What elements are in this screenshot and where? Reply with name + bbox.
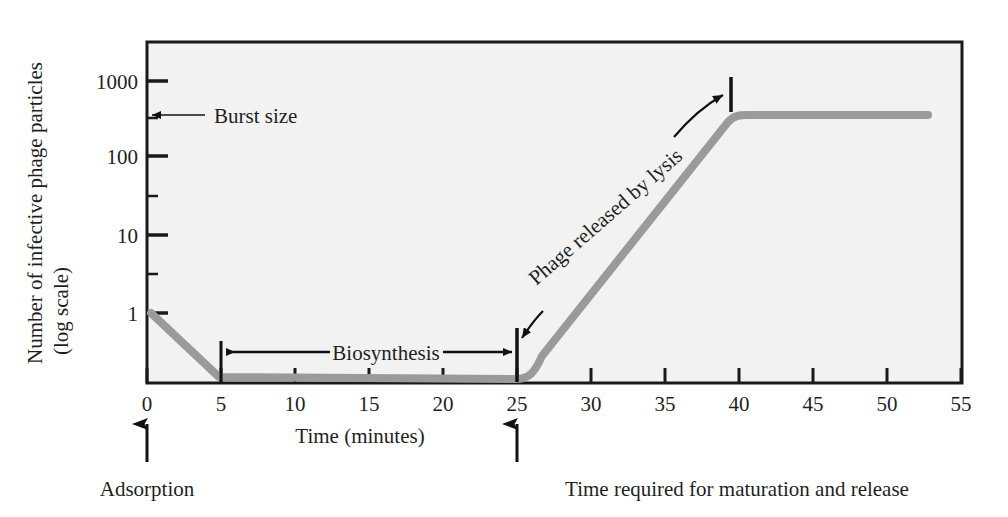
x-tick-label-50: 50 [877,392,898,416]
x-tick-label-5: 5 [216,392,227,416]
y-tick-label-100: 100 [107,145,139,169]
x-tick-label-30: 30 [581,392,602,416]
burst-size-label: Burst size [214,104,297,128]
x-tick-label-20: 20 [433,392,454,416]
x-axis-title: Time (minutes) [295,424,424,448]
y-axis-title-line2: (log scale) [49,267,73,355]
y-axis-title-line1: Number of infective phage particles [23,62,47,364]
biosynthesis-label: Biosynthesis [332,341,439,365]
x-tick-label-0: 0 [142,392,153,416]
x-tick-label-35: 35 [655,392,676,416]
x-tick-label-10: 10 [285,392,306,416]
x-tick-label-40: 40 [729,392,750,416]
x-tick-label-15: 15 [359,392,380,416]
one-step-growth-curve-chart: 1000 100 10 1 Number of infective phage … [0,0,1008,517]
figure-root: 1000 100 10 1 Number of infective phage … [0,0,1008,517]
y-tick-label-1: 1 [128,302,139,326]
maturation-label: Time required for maturation and release [565,477,909,501]
x-tick-label-25: 25 [507,392,528,416]
x-tick-label-55: 55 [951,392,972,416]
x-tick-label-45: 45 [803,392,824,416]
plot-panel-background [147,42,962,383]
y-tick-label-1000: 1000 [96,70,138,94]
adsorption-label: Adsorption [100,477,195,501]
y-tick-label-10: 10 [117,224,138,248]
